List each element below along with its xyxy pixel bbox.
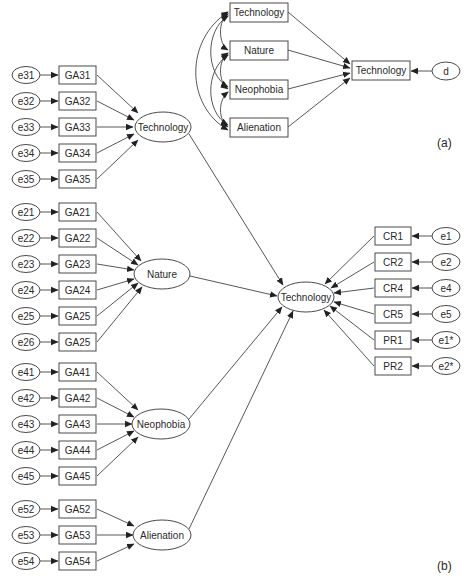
item-ga52: GA52 [59,500,96,518]
error-e21: e21 [12,204,40,221]
item-ga23: GA23 [59,255,96,273]
svg-text:GA33: GA33 [65,122,91,133]
error-e22: e22 [12,230,40,247]
svg-text:e2*: e2* [438,361,453,372]
item-ga31: GA31 [59,66,96,84]
svg-text:e42: e42 [18,393,35,404]
svg-text:GA23: GA23 [65,259,91,270]
svg-text:e54: e54 [18,556,35,567]
svg-text:GA52: GA52 [65,504,91,515]
error-e41: e41 [12,364,40,381]
svg-text:e24: e24 [18,285,35,296]
latent-neophobia: Neophobia [132,409,190,439]
outcome-technology-box: Technology [352,61,410,80]
item-ga22: GA22 [59,229,96,247]
error-e32: e32 [12,93,40,110]
svg-text:e1: e1 [440,231,452,242]
item-ga43: GA43 [59,415,96,433]
svg-text:GA41: GA41 [65,367,91,378]
svg-text:CR2: CR2 [383,257,403,268]
svg-text:e5: e5 [440,309,452,320]
error-e53: e53 [12,527,40,544]
panel-b-label: (b) [437,559,452,573]
item-ga25: GA25 [59,307,96,325]
item-cr5: CR5 [375,305,411,323]
error-e5: e5 [432,306,460,323]
error-e54: e54 [12,553,40,570]
svg-text:e22: e22 [18,233,35,244]
svg-text:e21: e21 [18,207,35,218]
svg-text:GA21: GA21 [65,207,91,218]
svg-text:Alienation: Alienation [140,530,184,541]
item-ga25b: GA25 [59,333,96,351]
latent-technology: Technology [135,112,191,142]
svg-text:GA53: GA53 [65,530,91,541]
svg-text:e25: e25 [18,311,35,322]
outcome-indicators: CR1 CR2 CR4 CR5 PR1 PR2 e1 e2 e4 e5 e1* … [324,227,460,375]
covariance-arcs [196,12,228,130]
error-e26: e26 [12,334,40,351]
error-e2: e2 [432,254,460,271]
disturbance-d: d [432,62,460,80]
svg-text:e32: e32 [18,96,35,107]
factor-technology-group: e31 e32 e33 e34 e35 GA31 GA32 GA33 GA34 … [12,66,191,188]
item-ga53: GA53 [59,526,96,544]
error-e43: e43 [12,416,40,433]
panel-a: Technology Nature Neophobia Alienation T… [196,3,460,150]
svg-text:e23: e23 [18,259,35,270]
error-e1-star: e1* [432,332,460,349]
error-e25: e25 [12,308,40,325]
svg-text:CR1: CR1 [383,231,403,242]
svg-text:e53: e53 [18,530,35,541]
item-ga24: GA24 [59,281,96,299]
svg-text:e31: e31 [18,70,35,81]
predictor-technology: Technology [230,3,288,22]
error-e31: e31 [12,67,40,84]
svg-text:Technology: Technology [356,65,407,76]
svg-text:Technology: Technology [138,122,189,133]
item-ga42: GA42 [59,389,96,407]
svg-text:e1*: e1* [438,335,453,346]
svg-text:e4: e4 [440,283,452,294]
svg-text:PR1: PR1 [383,335,403,346]
svg-text:GA25: GA25 [65,337,91,348]
factor-neophobia-group: e41 e42 e43 e44 e45 GA41 GA42 GA43 GA44 … [12,363,190,485]
error-e1: e1 [432,228,460,245]
error-e23: e23 [12,256,40,273]
error-e42: e42 [12,390,40,407]
item-ga44: GA44 [59,441,96,459]
svg-text:GA45: GA45 [65,471,91,482]
item-ga41: GA41 [59,363,96,381]
predictor-label: Neophobia [235,84,284,95]
latent-alienation: Alienation [133,520,191,550]
svg-text:CR4: CR4 [383,283,403,294]
svg-text:Nature: Nature [147,269,177,280]
error-e52: e52 [12,501,40,518]
error-e44: e44 [12,442,40,459]
latent-nature: Nature [134,259,190,289]
svg-text:Technology: Technology [281,292,332,303]
predictor-alienation: Alienation [230,118,288,137]
svg-text:e34: e34 [18,148,35,159]
svg-text:e2: e2 [440,257,452,268]
svg-text:e45: e45 [18,471,35,482]
panel-b: e31 e32 e33 e34 e35 GA31 GA32 GA33 GA34 … [12,66,460,573]
svg-text:e44: e44 [18,445,35,456]
svg-text:Neophobia: Neophobia [137,419,186,430]
svg-text:GA32: GA32 [65,96,91,107]
svg-text:GA42: GA42 [65,393,91,404]
item-ga34: GA34 [59,144,96,162]
svg-text:GA31: GA31 [65,70,91,81]
svg-text:GA35: GA35 [65,174,91,185]
item-cr2: CR2 [375,253,411,271]
item-cr4: CR4 [375,279,411,297]
item-ga35: GA35 [59,170,96,188]
predictor-nature: Nature [230,41,288,60]
svg-text:PR2: PR2 [383,361,403,372]
svg-text:e33: e33 [18,122,35,133]
svg-text:GA22: GA22 [65,233,91,244]
svg-text:e43: e43 [18,419,35,430]
item-pr2: PR2 [375,357,411,375]
svg-text:GA43: GA43 [65,419,91,430]
svg-text:d: d [443,66,449,77]
